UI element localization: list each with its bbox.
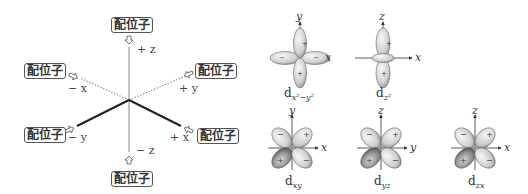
svg-text:−: − [303, 156, 310, 165]
orbital-dxy: − + + − [268, 115, 318, 172]
svg-text:−: − [460, 130, 467, 139]
orbital-axis-v: y [289, 104, 295, 117]
orbital-label-dxy: dxy [285, 174, 302, 190]
orbital-axis-h: x [325, 51, 331, 64]
svg-text:−: − [392, 156, 399, 165]
ligand-box-minus-x: 配位子 [24, 63, 66, 79]
svg-text:+: + [302, 40, 308, 48]
svg-text:+: + [392, 130, 399, 139]
svg-text:+: + [366, 156, 373, 165]
axis-label-minus-x: − x [68, 82, 87, 95]
orbital-label-dx2-y2: dx²−y² [284, 86, 314, 102]
arrow-right-icon [68, 71, 79, 81]
svg-text:+: + [386, 40, 392, 48]
ligand-box-bottom: 配位子 [111, 171, 153, 187]
svg-text:+: + [297, 70, 303, 78]
orbital-dx2-y2: + + − − [270, 22, 330, 88]
orbital-axis-v: y [296, 10, 302, 23]
orbital-axis-h: x [415, 51, 421, 64]
orbital-label-dyz: dyz [374, 174, 390, 190]
axis-label-plus-y: + y [179, 82, 198, 95]
orbital-axis-h: y [410, 141, 416, 154]
orbital-axis-h: x [504, 141, 510, 154]
orbital-dz2: + + [355, 22, 412, 88]
orbital-label-dz2: dz² [376, 86, 391, 102]
diagram-canvas: + + − − + + − + + − − + + − [0, 0, 528, 194]
svg-text:+: + [303, 130, 310, 139]
orbital-axis-v: z [472, 104, 478, 117]
svg-text:−: − [366, 130, 373, 139]
ligand-box-minus-y: 配位子 [24, 127, 66, 143]
orbital-axis-h: x [321, 141, 327, 154]
ligand-box-plus-x: 配位子 [197, 128, 239, 144]
axis-label-minus-y: − y [68, 131, 87, 144]
svg-text:−: − [313, 54, 319, 62]
orbital-label-dzx: dzx [468, 174, 484, 190]
coordinate-axes [77, 47, 183, 152]
ligand-box-top: 配位子 [111, 17, 153, 33]
orbital-axis-v: z [378, 104, 384, 117]
svg-text:−: − [277, 130, 284, 139]
svg-text:−: − [279, 54, 285, 62]
arrow-down-icon [125, 36, 133, 44]
svg-text:+: + [486, 130, 493, 139]
orbital-axis-v: z [379, 10, 385, 23]
axis-label-plus-z: + z [137, 43, 156, 56]
svg-text:+: + [381, 70, 387, 78]
arrow-up-icon [125, 156, 133, 164]
arrow-left-icon [183, 69, 194, 79]
axis-label-plus-x: + x [170, 131, 189, 144]
orbital-dyz: − + + − [357, 115, 407, 172]
svg-text:−: − [486, 156, 493, 165]
axis-label-minus-z: − z [136, 144, 155, 157]
ligand-box-plus-y: 配位子 [195, 63, 237, 79]
orbital-dzx: − + + − [451, 115, 501, 172]
svg-text:+: + [460, 156, 467, 165]
svg-text:+: + [277, 156, 284, 165]
